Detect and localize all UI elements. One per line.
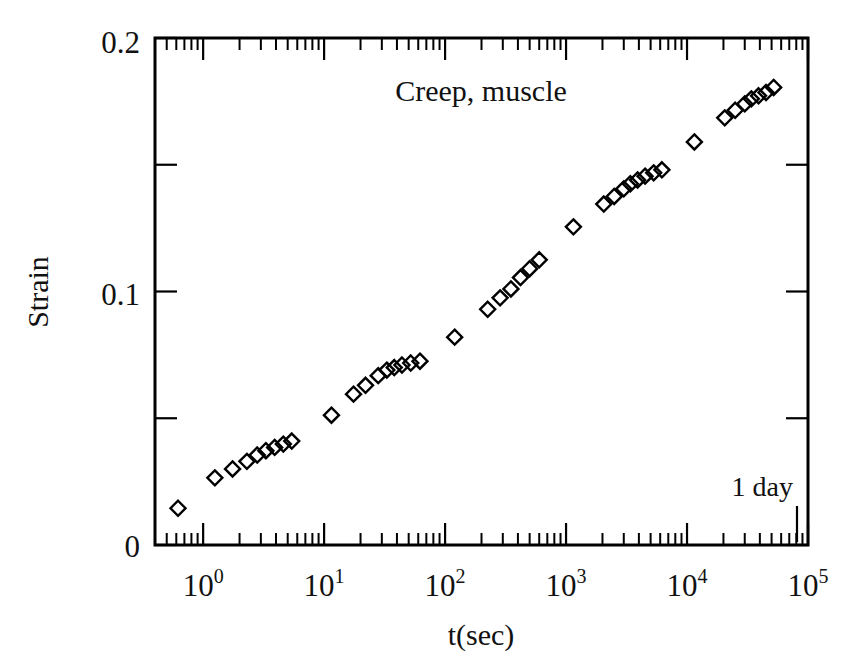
scatter-series-creep-strain	[171, 80, 782, 516]
y-tick-label-2: 0.2	[101, 25, 140, 60]
x-tick-label: 105	[788, 565, 829, 603]
y-axis-title: Strain	[21, 256, 54, 328]
data-point-marker	[387, 360, 402, 375]
x-tick-label: 103	[546, 565, 587, 603]
y-axis-ticks-left	[155, 38, 177, 545]
plot-title: Creep, muscle	[395, 74, 567, 107]
creep-muscle-figure: 100101102103104105 0 0.1 0.2 t(sec) Stra…	[0, 0, 868, 670]
y-tick-label-0: 0	[125, 529, 141, 564]
x-tick-label: 101	[304, 565, 345, 603]
annotation-one-day-label: 1 day	[732, 471, 793, 502]
chart-canvas: 100101102103104105 0 0.1 0.2 t(sec) Stra…	[0, 0, 868, 670]
data-point-marker	[225, 461, 240, 476]
data-point-marker	[171, 501, 186, 516]
x-axis-tick-labels: 100101102103104105	[183, 565, 829, 603]
data-point-marker	[324, 408, 339, 423]
data-point-marker	[447, 330, 462, 345]
x-axis-ticks-bottom	[155, 523, 808, 545]
x-axis-ticks-top	[155, 38, 808, 60]
y-tick-label-1: 0.1	[101, 277, 140, 312]
x-tick-label: 102	[425, 565, 466, 603]
data-point-marker	[346, 387, 361, 402]
x-tick-label: 100	[183, 565, 224, 603]
data-point-marker	[751, 88, 766, 103]
data-point-marker	[358, 378, 373, 393]
y-axis-ticks-right	[786, 38, 808, 545]
plot-frame	[155, 38, 808, 545]
x-tick-label: 104	[667, 565, 708, 603]
data-point-marker	[566, 219, 581, 234]
x-axis-title: t(sec)	[448, 618, 515, 652]
data-point-marker	[480, 302, 495, 317]
data-point-marker	[687, 134, 702, 149]
data-point-marker	[207, 470, 222, 485]
